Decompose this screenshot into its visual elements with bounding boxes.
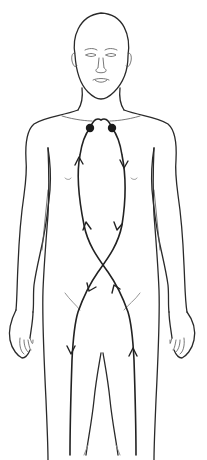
body-figure-svg <box>0 0 207 460</box>
head <box>72 13 132 99</box>
right-collarbone-point <box>108 124 116 132</box>
energy-pathway <box>67 119 137 455</box>
right-hand <box>169 312 195 358</box>
body-diagram <box>0 0 207 460</box>
torso <box>43 148 160 460</box>
shoulders-arms <box>16 110 187 312</box>
left-hand <box>9 310 33 358</box>
arrow-down-icon <box>67 346 75 354</box>
left-collarbone-point <box>86 124 94 132</box>
arrow-down-icon <box>87 283 96 291</box>
